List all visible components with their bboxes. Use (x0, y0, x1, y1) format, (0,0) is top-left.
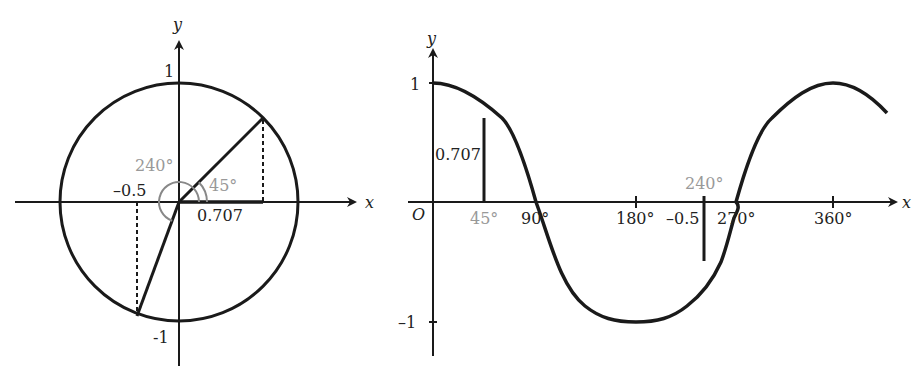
circle-cos45-label: 0.707 (197, 206, 243, 225)
value-0707-label: 0.707 (435, 145, 481, 164)
circle-y-label: y (172, 15, 183, 34)
graph-y-tick-neg1: –1 (398, 313, 416, 332)
x-tick-90-label: 90° (521, 209, 549, 228)
unit-circle-diagram: y x 1 -1 240° 45° –0.5 0.707 (15, 15, 374, 366)
cosine-graph: y x O 1 –1 0.707 45° 90° 180° –0.5 270° … (398, 29, 911, 356)
circle-angle-240-label: 240° (135, 156, 174, 175)
x-tick-180-label: 180° (616, 209, 655, 228)
x-tick-360-label: 360° (814, 209, 853, 228)
value-neg05-label: –0.5 (666, 209, 699, 228)
graph-y-tick-1: 1 (410, 75, 420, 94)
angle-arc-45 (199, 182, 207, 202)
x-tick-45-label: 45° (470, 209, 498, 228)
circle-tick-top: 1 (164, 62, 174, 81)
highlight-240-label: 240° (685, 174, 724, 193)
circle-tick-bottom: -1 (153, 328, 169, 347)
circle-x-label: x (365, 193, 374, 212)
graph-y-label: y (426, 29, 437, 48)
graph-x-label: x (902, 193, 911, 212)
x-tick-270-label: 270° (717, 209, 756, 228)
origin-label: O (412, 205, 425, 224)
circle-cos240-label: –0.5 (113, 181, 146, 200)
radius-240 (137, 202, 179, 316)
circle-angle-45-label: 45° (209, 176, 237, 195)
